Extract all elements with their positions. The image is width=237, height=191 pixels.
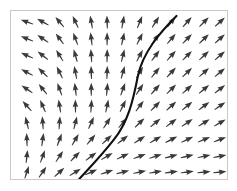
field-arrow — [88, 66, 94, 79]
arrow-head — [20, 67, 29, 75]
field-arrow — [56, 99, 64, 113]
arrow-head — [88, 83, 94, 91]
arrow-head — [137, 82, 146, 91]
field-arrow — [88, 49, 94, 62]
arrow-head — [87, 15, 94, 24]
field-arrow — [197, 32, 210, 45]
arrow-head — [121, 168, 130, 175]
field-arrow — [133, 134, 147, 146]
arrow-head — [72, 116, 79, 125]
arrow-head — [153, 134, 162, 143]
arrows-layer — [20, 15, 227, 179]
field-arrow — [180, 169, 194, 176]
arrow-head — [57, 116, 63, 124]
field-arrow — [68, 166, 82, 178]
field-arrow — [181, 15, 194, 28]
field-arrow — [213, 16, 226, 29]
field-arrow — [197, 83, 211, 96]
field-arrow — [71, 49, 80, 63]
field-arrow — [56, 116, 62, 129]
arrow-head — [203, 169, 211, 175]
field-arrow — [213, 49, 227, 62]
field-arrow — [180, 152, 194, 160]
field-arrow — [86, 116, 96, 130]
field-arrow — [71, 32, 81, 46]
arrow-head — [55, 82, 63, 91]
field-arrow — [36, 66, 49, 79]
arrow-head — [20, 17, 29, 25]
field-arrow — [37, 82, 49, 96]
arrow-head — [170, 168, 178, 175]
arrow-head — [154, 168, 162, 175]
field-arrow — [119, 32, 127, 46]
field-arrow — [213, 32, 226, 45]
field-arrow — [119, 15, 127, 29]
field-arrow — [149, 66, 162, 80]
field-arrow — [53, 15, 66, 29]
field-arrow — [165, 83, 178, 96]
arrow-head — [23, 116, 30, 125]
arrow-head — [104, 116, 113, 125]
arrow-head — [104, 66, 110, 74]
field-arrow — [181, 66, 194, 79]
field-arrow — [22, 165, 31, 179]
field-arrow — [197, 66, 210, 79]
field-arrow — [70, 15, 81, 29]
field-arrow — [150, 15, 162, 29]
field-arrow — [20, 99, 33, 112]
arrow-head — [202, 134, 211, 142]
field-arrow — [197, 152, 211, 160]
arrow-head — [104, 49, 110, 57]
arrow-head — [57, 132, 65, 141]
arrow-head — [104, 32, 110, 40]
field-arrow — [23, 116, 32, 130]
field-arrow — [20, 67, 34, 78]
arrow-head — [120, 99, 128, 108]
field-arrow — [71, 65, 79, 79]
field-arrow — [135, 15, 145, 29]
field-arrow — [36, 49, 50, 61]
field-arrow — [165, 32, 178, 46]
field-arrow — [69, 150, 82, 163]
arrow-head — [71, 65, 78, 74]
field-arrow — [54, 149, 66, 163]
field-arrow — [197, 117, 211, 129]
arrow-head — [154, 152, 163, 160]
field-arrow — [116, 168, 130, 177]
field-arrow — [149, 82, 162, 96]
arrow-head — [170, 152, 179, 159]
field-arrow — [103, 99, 111, 113]
arrow-head — [105, 167, 114, 175]
field-arrow — [23, 150, 30, 164]
arrow-head — [24, 150, 30, 158]
arrow-head — [137, 15, 145, 24]
field-arrow — [180, 117, 194, 129]
field-arrow — [213, 169, 227, 176]
arrow-head — [72, 133, 81, 142]
arrow-head — [120, 32, 127, 41]
field-arrow — [87, 15, 95, 29]
arrow-head — [71, 49, 78, 58]
field-arrow — [104, 66, 110, 79]
arrow-head — [54, 65, 62, 74]
arrow-head — [202, 152, 211, 159]
arrow-head — [185, 152, 194, 159]
field-arrow — [165, 66, 178, 79]
field-arrow — [88, 32, 95, 46]
field-arrow — [101, 116, 113, 130]
field-arrow — [100, 151, 114, 162]
field-arrow — [85, 133, 98, 147]
field-arrow — [100, 133, 113, 146]
field-arrow — [149, 116, 163, 129]
arrow-head — [218, 152, 227, 159]
field-arrow — [148, 152, 162, 161]
field-arrow — [197, 169, 211, 176]
field-arrow — [198, 15, 211, 28]
arrow-head — [88, 32, 94, 40]
field-arrow — [180, 100, 194, 113]
arrow-head — [73, 166, 82, 175]
vector-field-canvas — [11, 11, 227, 179]
field-arrow — [55, 82, 65, 96]
arrow-head — [218, 135, 227, 143]
plot-frame — [10, 10, 228, 180]
